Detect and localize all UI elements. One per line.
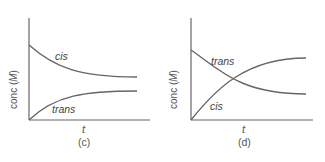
trans-curve [29,91,137,120]
chart-panel-d: trans cis conc (M) t (d) [160,0,322,162]
x-axis-label: t [82,123,85,135]
y-axis-label: conc (M) [8,70,19,109]
trans-curve [191,50,306,94]
x-axis-label: t [242,123,245,135]
panel-caption: (d) [238,136,251,148]
panel-caption: (c) [78,136,90,148]
cis-curve [191,58,306,120]
chart-panel-c: cis trans conc (M) t (c) [0,0,162,162]
trans-label: trans [211,55,234,67]
y-axis-label: conc (M) [168,70,179,109]
trans-label: trans [52,103,75,115]
cis-label: cis [210,100,223,112]
cis-label: cis [55,50,68,62]
cis-curve [29,45,137,77]
